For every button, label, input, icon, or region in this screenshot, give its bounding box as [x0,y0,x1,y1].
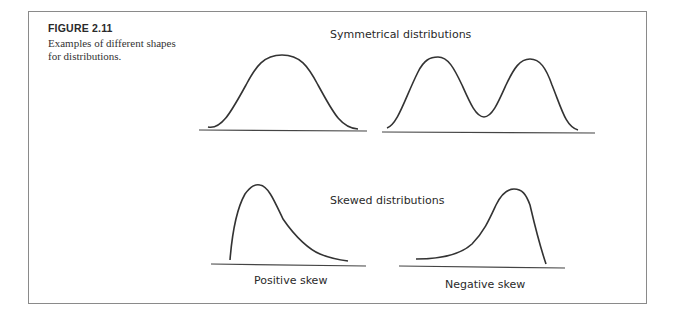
bimodal-distribution-panel [382,57,595,133]
skewed-title: Skewed distributions [330,194,445,207]
positive-skew-label: Positive skew [254,274,327,287]
negative-skew-label: Negative skew [445,278,525,291]
distribution-diagrams: Symmetrical distributions Skewed distrib… [0,0,684,316]
symmetrical-title: Symmetrical distributions [330,28,472,41]
normal-distribution-panel [199,55,367,131]
